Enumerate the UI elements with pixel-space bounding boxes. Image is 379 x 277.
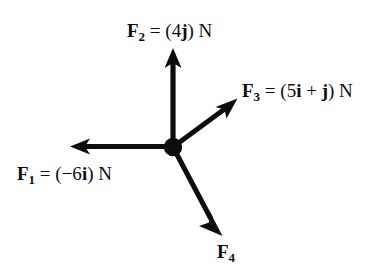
vector-label-f3: F3 = (5i + j) N: [242, 81, 353, 103]
vector-label-f1: F1 = (−6i) N: [17, 164, 112, 186]
particle-origin-dot: [164, 138, 182, 156]
vector-label-f2-equals: = (: [145, 20, 172, 41]
vector-label-f3-plus: +: [301, 80, 321, 101]
vector-label-f1-magnitude: −6: [62, 163, 82, 184]
vector-f3-shaft: [173, 108, 226, 147]
vector-label-f1-symbol: F: [17, 163, 29, 184]
vector-f4: [173, 147, 223, 236]
vector-label-f3-symbol: F: [242, 80, 254, 101]
vector-label-f1-unit: N: [98, 163, 112, 184]
vector-label-f3-unit: N: [339, 80, 353, 101]
vector-label-f4: F4: [217, 242, 235, 264]
vector-f2: [165, 48, 182, 147]
vector-f4-arrowhead: [199, 212, 223, 236]
vector-label-f2-unit: N: [199, 20, 213, 41]
vector-label-f2-symbol: F: [127, 20, 139, 41]
vector-label-f3-equals: = (: [260, 80, 287, 101]
force-diagram-figure: F1 = (−6i) N F2 = (4j) N F3 = (5i + j) N…: [0, 0, 379, 277]
vector-label-f2: F2 = (4j) N: [127, 21, 212, 43]
vector-label-f2-close: ): [187, 20, 198, 41]
vector-f4-shaft: [173, 147, 211, 219]
vector-f3: [173, 99, 238, 148]
vector-label-f2-magnitude: 4: [172, 20, 182, 41]
vector-f1: [70, 139, 173, 155]
vector-label-f4-subscript: 4: [229, 250, 236, 265]
vector-label-f4-symbol: F: [217, 241, 229, 262]
vector-label-f1-equals: = (: [35, 163, 62, 184]
vector-label-f3-magnitude: 5: [287, 80, 297, 101]
vector-label-f1-close: ): [87, 163, 98, 184]
vector-label-f3-close: ): [328, 80, 339, 101]
